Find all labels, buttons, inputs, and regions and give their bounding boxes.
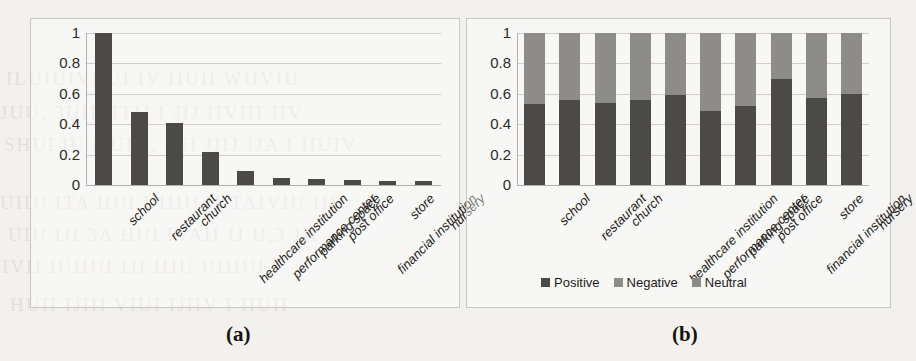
bar-segment-neutral [524,33,545,68]
bar [273,178,290,185]
bar [415,181,432,185]
bar-segment-neutral [735,33,756,69]
bar-segment-negative [806,65,827,98]
y-tick-label: 1 [72,24,80,41]
bar [202,152,219,185]
bar-segment-positive [841,94,862,185]
x-tick-label: school [125,191,162,228]
legend-label: Neutral [705,275,747,290]
x-axis-line [86,185,441,186]
bar-slot [193,33,229,185]
bar-segment-positive [559,100,580,185]
bar-segment-negative [771,56,792,79]
bar-segment-negative [665,63,686,95]
bar-segment-negative [559,66,580,99]
bar-slot [228,33,264,185]
x-tick-label: school [556,191,593,228]
bar-segment-negative [524,68,545,104]
bar-slot [335,33,371,185]
y-tick-label: 0.6 [59,85,80,102]
stacked-bar [524,33,545,185]
legend-label: Positive [554,275,600,290]
stacked-bar-series-b [517,33,869,185]
bar-segment-positive [735,106,756,185]
y-tick-label: 0.8 [490,55,511,72]
y-tick-label: 0.6 [490,85,511,102]
stacked-bar [806,33,827,185]
bar-segment-positive [700,111,721,185]
stacked-bar [630,33,651,185]
bar-segment-negative [841,63,862,93]
plot-area-a: 00.20.40.60.81 [86,33,441,185]
stacked-bar [595,33,616,185]
bar [379,181,396,185]
bar-slot [799,33,834,185]
stacked-bar [735,33,756,185]
stacked-bar [771,33,792,185]
y-tick-label: 0.8 [59,55,80,72]
x-tick-label: store [835,191,866,222]
bar-segment-positive [771,79,792,185]
bar-slot [834,33,869,185]
panel-caption-a: (a) [226,322,251,347]
stacked-bar [700,33,721,185]
x-axis-line [517,185,869,186]
bar-slot [122,33,158,185]
bar-slot [264,33,300,185]
bar [131,112,148,185]
bar-slot [370,33,406,185]
bar [166,123,183,185]
y-tick-label: 0 [503,176,511,193]
y-tick-label: 0.4 [59,115,80,132]
bar [237,171,254,185]
bar-segment-neutral [630,33,651,66]
legend-item-negative[interactable]: Negative [614,275,678,290]
bar-slot [587,33,622,185]
bar-segment-neutral [700,33,721,71]
bar-slot [763,33,798,185]
legend-label: Negative [627,275,678,290]
bar [308,179,325,185]
bar-slot [406,33,442,185]
bar-slot [623,33,658,185]
x-tick-label: store [407,191,438,222]
bar-slot [728,33,763,185]
bar-segment-positive [595,103,616,185]
bar-slot [552,33,587,185]
chart-panel-a: 00.20.40.60.81 schoolrestaurantchurchhea… [30,18,460,308]
legend-item-neutral[interactable]: Neutral [692,275,747,290]
bar-segment-negative [595,68,616,103]
bar-segment-positive [630,100,651,185]
bar-segment-negative [630,66,651,99]
bar [95,33,112,185]
chart-legend-b: PositiveNegativeNeutral [541,275,747,290]
legend-item-positive[interactable]: Positive [541,275,600,290]
bar-segment-negative [700,71,721,111]
bar-slot [693,33,728,185]
bar [344,180,361,185]
bar-segment-neutral [559,33,580,66]
panel-caption-b: (b) [672,322,698,347]
y-tick-label: 0.2 [490,146,511,163]
stacked-bar [665,33,686,185]
bar-slot [157,33,193,185]
y-tick-label: 1 [503,24,511,41]
legend-swatch-icon [692,278,701,287]
bar-series-a [86,33,441,185]
bar-segment-neutral [771,33,792,56]
stacked-bar [559,33,580,185]
y-tick-label: 0.2 [59,146,80,163]
bar-segment-positive [665,95,686,185]
bar-segment-neutral [595,33,616,68]
bar-segment-positive [524,104,545,185]
bar-segment-positive [806,98,827,185]
bar-segment-neutral [806,33,827,65]
bar-slot [86,33,122,185]
legend-swatch-icon [541,278,550,287]
y-tick-label: 0.4 [490,115,511,132]
chart-panel-b: 00.20.40.60.81 schoolrestaurantchurchhea… [466,18,891,308]
stacked-bar [841,33,862,185]
bar-slot [299,33,335,185]
bar-segment-negative [735,70,756,106]
